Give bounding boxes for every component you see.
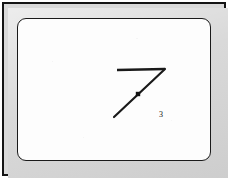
diagram-screenshot: 3 [0,0,229,179]
top-horizontal-stroke [117,69,165,70]
drawing-panel: 3 [17,18,211,161]
point-label: 3 [159,111,163,119]
figure-svg [18,19,211,161]
point-marker-icon [136,92,140,96]
